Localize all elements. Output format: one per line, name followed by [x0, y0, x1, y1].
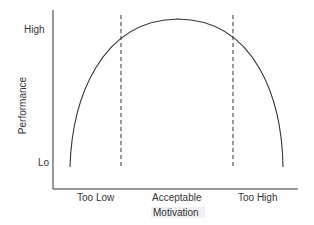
y-axis-label: Performance: [17, 76, 28, 136]
region-label-too-low: Too Low: [77, 192, 114, 203]
region-label-acceptable: Acceptable: [152, 192, 201, 203]
region-label-too-high: Too High: [238, 192, 277, 203]
x-axis-label: Motivation: [151, 207, 205, 218]
performance-curve: [70, 19, 283, 167]
y-tick-high: High: [24, 24, 45, 35]
y-tick-lo: Lo: [38, 157, 49, 168]
